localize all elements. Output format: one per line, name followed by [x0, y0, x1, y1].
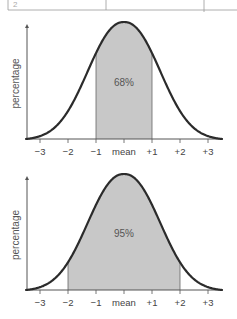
y-axis-arrow-icon: [25, 24, 29, 28]
y-axis-arrow-icon: [25, 176, 29, 180]
x-tick-label: mean: [112, 297, 136, 308]
chart-95-percent: −3−2−1mean+1+2+3percentage95%: [10, 174, 223, 308]
x-tick-label: mean: [112, 146, 136, 157]
figure: 2 −3−2−1mean+1+2+3percentage68% −3−2−1me…: [0, 0, 237, 319]
x-tick-label: +3: [203, 146, 214, 157]
x-tick-label: +2: [175, 146, 186, 157]
x-tick-label: +1: [147, 297, 158, 308]
y-axis-title: percentage: [10, 210, 21, 260]
x-tick-label: −1: [91, 297, 102, 308]
chart-68-percent: −3−2−1mean+1+2+3percentage68%: [10, 22, 223, 157]
x-tick-label: −2: [63, 146, 74, 157]
shaded-percentage-label: 95%: [114, 228, 134, 239]
table-fragment: 2: [8, 0, 237, 12]
y-axis-title: percentage: [10, 58, 21, 108]
x-tick-label: +2: [175, 297, 186, 308]
x-tick-label: +1: [147, 146, 158, 157]
x-tick-label: −1: [91, 146, 102, 157]
shaded-percentage-label: 68%: [114, 77, 134, 88]
x-tick-label: −3: [35, 146, 46, 157]
table-cell-text: 2: [13, 0, 18, 9]
x-tick-label: +3: [203, 297, 214, 308]
x-tick-label: −3: [35, 297, 46, 308]
x-tick-label: −2: [63, 297, 74, 308]
